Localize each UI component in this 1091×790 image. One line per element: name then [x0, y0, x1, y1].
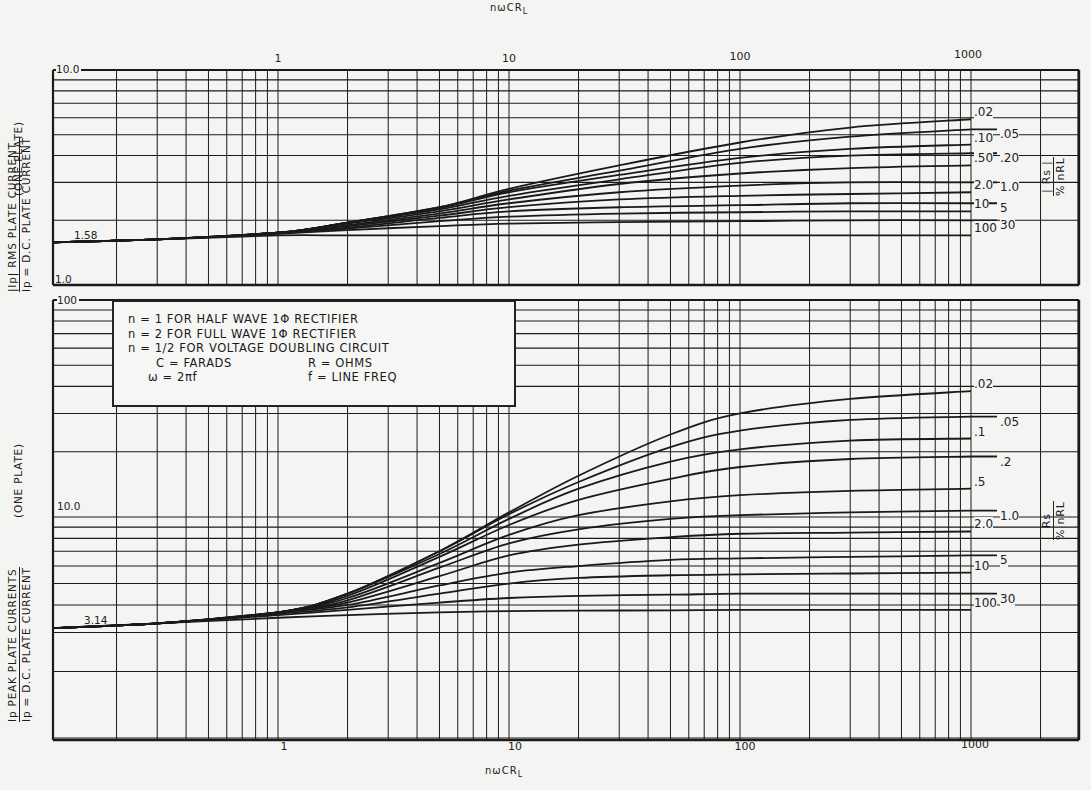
top-y-axis-suffix: (ONE PLATE)	[12, 121, 24, 196]
bottom-x-tick-10: 10	[508, 740, 522, 753]
top-x-axis-title-sub: L	[523, 7, 528, 16]
bottom-y-axis-suffix: (ONE PLATE)	[12, 443, 24, 518]
bottom-curve-label: 100	[974, 596, 997, 610]
bottom-y-axis-title-line2: Ip = D.C. PLATE CURRENT	[20, 567, 32, 722]
top-y-min-label: 1.0	[55, 273, 72, 285]
bottom-param-den: % nRL	[1054, 501, 1067, 540]
bottom-y-mid-label: 10.0	[57, 500, 80, 512]
top-y-ref-label: 1.58	[74, 229, 97, 241]
top-x-tick-1: 1	[275, 52, 282, 65]
top-curve-label: .02	[974, 105, 993, 119]
legend-farads: C = FARADS	[156, 356, 232, 371]
bottom-param-label: Rs % nRL	[1040, 501, 1067, 540]
bottom-x-axis-title-sub: L	[518, 770, 523, 779]
top-curve-label: 5	[1000, 201, 1008, 215]
top-curve-label: .20	[1000, 151, 1019, 165]
bottom-curve-.2	[53, 457, 997, 629]
top-curve-label: 100	[974, 221, 997, 235]
top-curve-label: 10	[974, 197, 989, 211]
legend-line-voltage-doubling: n = 1/2 FOR VOLTAGE DOUBLING CIRCUIT	[128, 341, 514, 356]
bottom-y-ref-label: 3.14	[84, 614, 107, 626]
bottom-curve-100	[53, 610, 971, 628]
legend-line-full-wave: n = 2 FOR FULL WAVE 1Φ RECTIFIER	[128, 327, 514, 342]
legend-ohms: R = OHMS	[308, 356, 373, 371]
top-curve-100	[53, 235, 971, 242]
bottom-curve-label: 5	[1000, 553, 1008, 567]
bottom-curve-2.0	[53, 531, 971, 628]
top-curve-label: 30	[1000, 218, 1015, 232]
top-param-den: % nRL	[1054, 157, 1067, 196]
bottom-y-axis-title: Ip PEAK PLATE CURRENTS Ip = D.C. PLATE C…	[6, 567, 32, 722]
top-param-label: | Rs | % nRL	[1040, 157, 1067, 196]
bottom-curve-label: .2	[1000, 455, 1011, 469]
bottom-curve-label: .5	[974, 475, 985, 489]
legend-line-half-wave: n = 1 FOR HALF WAVE 1Φ RECTIFIER	[128, 312, 514, 327]
bottom-curve-label: .1	[974, 425, 985, 439]
top-y-max-label: 10.0	[56, 63, 81, 75]
bottom-param-num: Rs	[1040, 501, 1054, 540]
top-x-tick-1000: 1000	[954, 48, 982, 61]
bottom-curve-.5	[53, 489, 971, 628]
top-curve-label: .50	[974, 151, 993, 165]
top-curve-label: .05	[1000, 127, 1019, 141]
top-curve-label: 1.0	[1000, 180, 1019, 194]
top-curve-label: .10	[974, 131, 993, 145]
bottom-curve-label: 1.0	[1000, 509, 1019, 523]
bottom-y-max-label: 100	[57, 294, 79, 306]
top-curve-label: 2.0	[974, 178, 993, 192]
bottom-curve-label: .05	[1000, 415, 1019, 429]
bottom-curve-label: 30	[1000, 592, 1015, 606]
bottom-x-axis-title-text: nωCR	[485, 765, 518, 776]
bottom-y-axis-title-line1: Ip PEAK PLATE CURRENTS	[6, 567, 20, 722]
top-x-tick-10: 10	[502, 52, 516, 65]
top-x-axis-title: nωCRL	[490, 2, 528, 16]
bottom-x-tick-100: 100	[735, 740, 756, 753]
legend-line-freq: f = LINE FREQ	[308, 370, 397, 385]
bottom-x-tick-1000: 1000	[961, 738, 989, 751]
bottom-curve-label: 2.0	[974, 517, 993, 531]
bottom-curve-label: 10	[974, 559, 989, 573]
bottom-x-tick-1: 1	[281, 740, 288, 753]
top-param-num: | Rs |	[1040, 157, 1054, 196]
top-x-tick-100: 100	[730, 50, 751, 63]
bottom-curve-label: .02	[974, 377, 993, 391]
top-x-axis-title-text: nωCR	[490, 2, 523, 13]
legend-omega: ω = 2πf	[148, 370, 197, 385]
bottom-x-axis-title: nωCRL	[485, 765, 523, 779]
bottom-curve-.02	[53, 391, 971, 628]
legend-note-box: n = 1 FOR HALF WAVE 1Φ RECTIFIER n = 2 F…	[112, 300, 516, 407]
